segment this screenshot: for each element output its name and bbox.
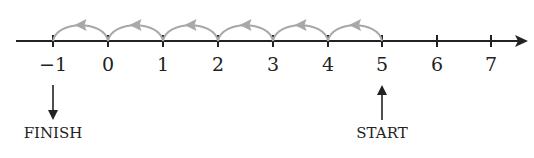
start-arrow-icon (377, 85, 387, 120)
tick-label: 6 (431, 53, 443, 75)
tick-label: 2 (212, 53, 224, 75)
tick-label: 3 (267, 53, 279, 75)
tick-label: 0 (102, 53, 114, 75)
finish-label: FINISH (24, 124, 83, 142)
tick-label: 4 (322, 53, 334, 75)
start-label: START (356, 124, 407, 142)
tick-label: 5 (376, 53, 388, 75)
tick-label: 7 (485, 53, 497, 75)
tick-label: −1 (39, 53, 67, 75)
finish-arrow-icon (48, 85, 58, 120)
jump-arcs (53, 19, 382, 41)
tick-label: 1 (157, 53, 169, 75)
